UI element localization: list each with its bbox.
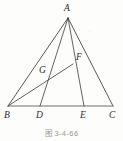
segment-side-AB [8, 18, 68, 106]
triangle-diagram [0, 0, 123, 141]
segment-cevian-AD [40, 18, 68, 106]
point-label-G: G [39, 66, 46, 76]
segment-side-AC [68, 18, 113, 106]
point-label-D: D [36, 111, 43, 121]
point-label-E: E [80, 111, 86, 121]
point-label-F: F [76, 53, 82, 63]
figure-caption: 图 3-4-66 [0, 127, 123, 138]
geometry-figure: A B C D E F G 图 3-4-66 [0, 0, 123, 141]
point-label-A: A [64, 4, 70, 14]
point-label-C: C [109, 111, 115, 121]
point-label-B: B [4, 111, 10, 121]
